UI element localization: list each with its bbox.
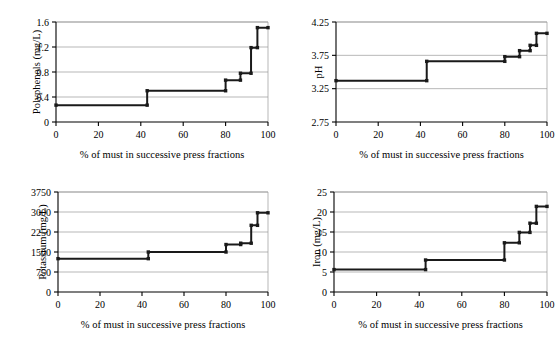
x-axis-title: % of must in successive press fractions (80, 149, 244, 160)
data-point-marker (224, 78, 227, 81)
data-point-marker (503, 55, 506, 58)
y-tick-label: 0 (46, 287, 51, 298)
data-point-marker (503, 60, 506, 63)
data-point-marker (332, 268, 335, 271)
chart-panel-ph: 2.753.253.754.25020406080100pH% of must … (280, 0, 559, 170)
data-point-marker (528, 44, 531, 47)
y-tick-label: 0 (322, 287, 327, 298)
x-axis-title: % of must in successive press fractions (81, 319, 245, 330)
y-tick-label: 0 (44, 117, 49, 128)
y-tick-label: 3.25 (312, 83, 330, 94)
y-axis-title: Polyphenols (mg/L) (31, 29, 43, 114)
y-tick-label: 25 (317, 187, 327, 198)
x-tick-label: 60 (178, 129, 188, 140)
data-point-marker (250, 242, 253, 245)
data-point-marker (535, 222, 538, 225)
data-point-marker (424, 268, 427, 271)
data-point-marker (256, 26, 259, 29)
y-tick-label: 1.6 (37, 17, 50, 28)
x-tick-label: 80 (500, 129, 510, 140)
data-point-marker (518, 49, 521, 52)
x-tick-label: 40 (136, 129, 146, 140)
data-point-marker (239, 78, 242, 81)
data-point-marker (518, 55, 521, 58)
x-tick-label: 0 (54, 129, 59, 140)
data-point-marker (518, 231, 521, 234)
data-point-marker (503, 258, 506, 261)
chart-panel-potassium: 07501500225030003750020406080100Potassiu… (0, 170, 280, 341)
plot-iron: 0510152025020406080100Iron (mg/L)% of mu… (280, 170, 559, 341)
y-tick-label: 3.75 (312, 50, 330, 61)
data-point-marker (528, 222, 531, 225)
x-tick-label: 40 (137, 299, 147, 310)
x-tick-label: 100 (540, 299, 555, 310)
data-point-marker (424, 258, 427, 261)
data-point-marker (528, 231, 531, 234)
data-point-marker (147, 257, 150, 260)
data-point-marker (56, 257, 59, 260)
data-point-marker (503, 241, 506, 244)
data-point-marker (224, 89, 227, 92)
plot-polyphenols: 00.40.81.21.6020406080100Polyphenols (mg… (0, 0, 280, 170)
y-axis-title: pH (313, 65, 324, 78)
data-point-marker (239, 72, 242, 75)
data-point-marker (256, 46, 259, 49)
x-axis-title: % of must in successive press fractions (359, 149, 523, 160)
plot-potassium: 07501500225030003750020406080100Potassiu… (0, 170, 280, 341)
data-point-marker (256, 211, 259, 214)
data-point-marker (250, 224, 253, 227)
data-point-marker (249, 72, 252, 75)
data-point-marker (545, 205, 548, 208)
x-tick-label: 100 (261, 129, 276, 140)
x-tick-label: 40 (414, 299, 424, 310)
x-tick-label: 60 (458, 129, 468, 140)
y-axis-title: Iron (mg/L) (311, 217, 323, 267)
data-point-marker (528, 49, 531, 52)
data-series-step-line (336, 33, 547, 80)
data-point-marker (425, 60, 428, 63)
y-tick-label: 5 (322, 267, 327, 278)
x-tick-label: 0 (334, 129, 339, 140)
x-tick-label: 100 (540, 129, 555, 140)
data-point-marker (224, 250, 227, 253)
x-tick-label: 60 (179, 299, 189, 310)
x-tick-label: 80 (221, 299, 231, 310)
x-tick-label: 0 (56, 299, 61, 310)
data-point-marker (535, 32, 538, 35)
figure-four-panel-press-fractions: 00.40.81.21.6020406080100Polyphenols (mg… (0, 0, 559, 341)
data-point-marker (535, 44, 538, 47)
x-axis-title: % of must in successive press fractions (358, 319, 522, 330)
plot-ph: 2.753.253.754.25020406080100pH% of must … (280, 0, 559, 170)
data-point-marker (256, 224, 259, 227)
data-point-marker (266, 26, 269, 29)
data-series-step-line (334, 206, 547, 269)
data-point-marker (545, 32, 548, 35)
data-point-marker (54, 103, 57, 106)
data-point-marker (535, 205, 538, 208)
x-tick-label: 80 (221, 129, 231, 140)
x-tick-label: 80 (499, 299, 509, 310)
x-tick-label: 20 (95, 299, 105, 310)
y-tick-label: 3750 (31, 187, 51, 198)
chart-panel-polyphenols: 00.40.81.21.6020406080100Polyphenols (mg… (0, 0, 280, 170)
x-tick-label: 60 (457, 299, 467, 310)
y-tick-label: 20 (317, 207, 327, 218)
data-point-marker (147, 250, 150, 253)
data-point-marker (334, 79, 337, 82)
x-tick-label: 20 (372, 299, 382, 310)
x-tick-label: 20 (373, 129, 383, 140)
y-axis-title: Potassium (mg/L) (37, 204, 49, 280)
x-tick-label: 100 (261, 299, 276, 310)
data-point-marker (145, 103, 148, 106)
y-tick-label: 2.75 (312, 117, 330, 128)
data-point-marker (266, 211, 269, 214)
y-tick-label: 4.25 (312, 17, 330, 28)
data-point-marker (145, 89, 148, 92)
x-tick-label: 40 (415, 129, 425, 140)
data-point-marker (249, 46, 252, 49)
x-tick-label: 20 (93, 129, 103, 140)
x-tick-label: 0 (332, 299, 337, 310)
data-point-marker (425, 79, 428, 82)
data-point-marker (239, 242, 242, 245)
data-series-step-line (56, 28, 268, 106)
